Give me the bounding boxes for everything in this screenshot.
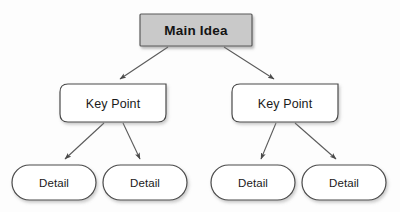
diagram-canvas: Main Idea Key Point Key Point Detail Det…: [0, 0, 400, 212]
connector-key-point-left-to-detail-1: [65, 123, 104, 159]
main-idea-box: [140, 14, 252, 46]
node-detail-2[interactable]: Detail: [103, 165, 187, 200]
connector-key-point-right-to-detail-3: [261, 123, 276, 159]
node-key-point-left[interactable]: Key Point: [60, 84, 166, 122]
concept-map-diagram: Main Idea Key Point Key Point Detail Det…: [0, 0, 400, 212]
key-point-right-box: [232, 84, 338, 122]
node-main-idea[interactable]: Main Idea: [140, 14, 252, 46]
detail-1-box: [12, 165, 96, 200]
node-detail-4[interactable]: Detail: [302, 165, 386, 200]
connector-root-to-key-point-right: [224, 47, 274, 79]
connector-root-to-key-point-left: [120, 47, 168, 79]
node-key-point-right[interactable]: Key Point: [232, 84, 338, 122]
node-detail-1[interactable]: Detail: [12, 165, 96, 200]
key-point-left-box: [60, 84, 166, 122]
detail-3-box: [211, 165, 295, 200]
detail-4-box: [302, 165, 386, 200]
connector-key-point-right-to-detail-4: [295, 123, 336, 159]
detail-2-box: [103, 165, 187, 200]
node-detail-3[interactable]: Detail: [211, 165, 295, 200]
connector-key-point-left-to-detail-2: [123, 123, 140, 159]
